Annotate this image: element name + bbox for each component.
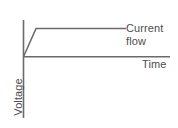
x-axis-label: Time <box>142 58 166 70</box>
current-flow-annotation-line1: Current <box>126 22 163 34</box>
y-axis-label: Voltage <box>12 66 24 128</box>
current-flow-curve <box>24 29 127 57</box>
figure-canvas: Current flow Time Voltage <box>0 0 178 128</box>
current-flow-annotation-line2: flow <box>126 35 146 47</box>
